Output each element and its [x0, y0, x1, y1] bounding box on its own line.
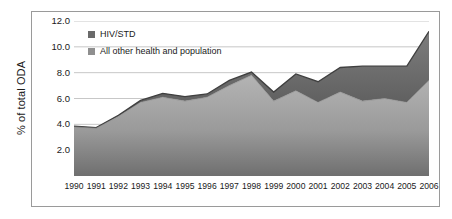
y-axis-tick-label: 4.0: [40, 119, 70, 129]
y-axis-title: % of total ODA: [15, 33, 27, 163]
legend-item-all-other-health-population: All other health and population: [88, 44, 222, 58]
x-axis-tick-label: 2002: [329, 182, 351, 191]
x-axis-tick-labels: 1990199119921993199419951996199719981999…: [74, 182, 429, 196]
legend-label: HIV/STD: [100, 29, 136, 39]
x-axis-tick-label: 1992: [107, 182, 129, 191]
x-axis-tick-label: 1995: [174, 182, 196, 191]
x-axis-tick-label: 1991: [85, 182, 107, 191]
y-axis-tick-label: 8.0: [40, 68, 70, 78]
y-axis-tick-label: 10.0: [40, 42, 70, 52]
y-axis-tick-label: 12.0: [40, 16, 70, 26]
x-axis-tick-label: 2000: [285, 182, 307, 191]
x-axis-tick-label: 1993: [130, 182, 152, 191]
x-axis-tick-label: 1996: [196, 182, 218, 191]
legend-swatch-icon: [88, 31, 95, 38]
chart-container: % of total ODA 12.010.08.06.04.02.0: [0, 0, 452, 219]
x-axis-tick-label: 1994: [152, 182, 174, 191]
x-axis-tick-label: 2006: [418, 182, 440, 191]
x-axis-tick-label: 2005: [396, 182, 418, 191]
x-axis-tick-label: 1998: [241, 182, 263, 191]
x-axis-tick-label: 1997: [218, 182, 240, 191]
legend-item-hiv-std: HIV/STD: [88, 27, 222, 41]
x-axis-tick-label: 2004: [374, 182, 396, 191]
x-axis-tick-label: 1990: [63, 182, 85, 191]
x-axis-tick-label: 1999: [263, 182, 285, 191]
legend-label: All other health and population: [100, 46, 222, 56]
y-axis-tick-label: 6.0: [40, 94, 70, 104]
y-axis-tick-label: 2.0: [40, 145, 70, 155]
x-axis-tick-label: 2001: [307, 182, 329, 191]
x-axis-tick-label: 2003: [351, 182, 373, 191]
legend-swatch-icon: [88, 48, 95, 55]
chart-legend: HIV/STD All other health and population: [88, 27, 222, 61]
